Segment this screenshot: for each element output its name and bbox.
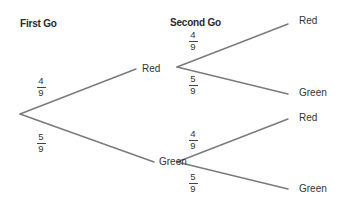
numerator: 5 [190, 172, 195, 182]
denominator: 9 [38, 88, 43, 98]
outcome-green-green: Green [299, 183, 327, 194]
numerator: 4 [38, 76, 43, 86]
denominator: 9 [190, 141, 195, 151]
outcome-red-green: Green [299, 87, 327, 98]
denominator: 9 [190, 42, 195, 52]
prob-green-green: 5 9 [187, 172, 199, 194]
prob-red-green: 5 9 [187, 74, 199, 96]
outcome-red-red: Red [299, 15, 317, 26]
numerator: 4 [190, 129, 195, 139]
prob-first-green: 5 9 [35, 132, 47, 154]
outcome-first-green: Green [159, 156, 187, 167]
prob-red-red: 4 9 [187, 30, 199, 52]
denominator: 9 [38, 144, 43, 154]
second-go-heading: Second Go [170, 17, 221, 28]
denominator: 9 [190, 86, 195, 96]
prob-first-red: 4 9 [35, 76, 47, 98]
prob-green-red: 4 9 [187, 129, 199, 151]
first-go-heading: First Go [20, 18, 57, 29]
outcome-first-red: Red [142, 63, 160, 74]
denominator: 9 [190, 184, 195, 194]
tree-branches [0, 0, 341, 206]
outcome-green-red: Red [299, 112, 317, 123]
numerator: 5 [38, 132, 43, 142]
numerator: 5 [190, 74, 195, 84]
numerator: 4 [190, 30, 195, 40]
